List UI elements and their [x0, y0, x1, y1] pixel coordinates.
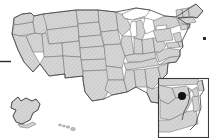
state-colorado [62, 41, 81, 57]
us-map-svg [0, 0, 209, 138]
state-maine [188, 4, 203, 18]
state-missouri [104, 44, 125, 68]
hawaii-island-oahu [63, 125, 66, 127]
lake-ontario [156, 25, 167, 30]
hawaii-island-kauai [58, 124, 61, 126]
state-arizona [40, 56, 65, 76]
state-maryland [166, 42, 180, 48]
state-north-dakota [76, 10, 99, 24]
location-marker-icon[interactable] [178, 92, 186, 100]
state-oklahoma [81, 59, 108, 71]
state-ohio [142, 38, 155, 54]
right-edge-blip-icon [203, 37, 206, 40]
lake-michigan [130, 21, 137, 37]
alaska-inset-group [11, 97, 40, 128]
state-minnesota [98, 10, 118, 32]
detail-inset-group [159, 79, 209, 138]
hawaii-inset-group [58, 124, 75, 131]
state-south-dakota [78, 22, 101, 37]
state-indiana [134, 38, 143, 54]
state-new-mexico [63, 56, 83, 78]
map-figure: United States locator map Contiguous Uni… [0, 0, 209, 138]
hawaii-island-big-island [71, 127, 76, 130]
state-arkansas [106, 66, 124, 80]
state-iowa [101, 30, 121, 45]
state-kansas [80, 46, 106, 60]
state-new-jersey [173, 32, 182, 42]
state-connecticut [180, 24, 188, 30]
hawaii-island-maui [66, 126, 70, 128]
